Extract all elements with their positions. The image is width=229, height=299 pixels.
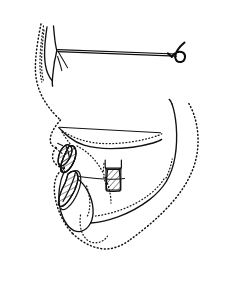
upper-molar-dotted-crown-detail — [103, 164, 104, 172]
cephalometric-tracing-svg — [0, 0, 229, 299]
cephalometric-tracing-canvas: Cephalometric Lateral Tracing — [0, 0, 229, 299]
upper-molar-apex-line — [107, 191, 120, 192]
drawing-background — [0, 0, 229, 299]
